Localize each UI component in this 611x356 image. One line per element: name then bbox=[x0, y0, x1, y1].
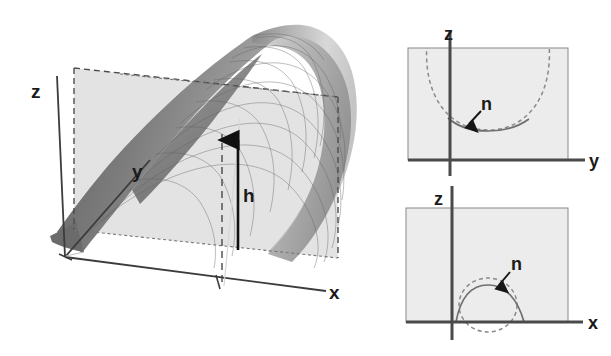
main-3d-scene: z y x h bbox=[31, 25, 357, 303]
panel-zx-cross-section: z x n bbox=[406, 186, 598, 340]
y-axis-label: y bbox=[132, 161, 143, 182]
x-axis-line bbox=[65, 257, 326, 291]
h-label: h bbox=[243, 185, 255, 206]
panel-zy-cross-section: z y n bbox=[408, 24, 599, 176]
z-axis-label: z bbox=[31, 81, 41, 102]
zx-panel-background bbox=[406, 208, 568, 322]
figure-root: z y x h z y n bbox=[0, 0, 611, 356]
zy-curve-label: n bbox=[481, 94, 492, 114]
zy-y-axis-label: y bbox=[589, 151, 599, 171]
zx-x-axis-label: x bbox=[588, 313, 598, 333]
diagram-canvas: z y x h z y n bbox=[0, 0, 611, 356]
zy-z-axis-label: z bbox=[444, 24, 453, 44]
zx-curve-label: n bbox=[511, 254, 522, 274]
zx-z-axis-label: z bbox=[434, 189, 443, 209]
x-axis-label: x bbox=[329, 282, 340, 303]
